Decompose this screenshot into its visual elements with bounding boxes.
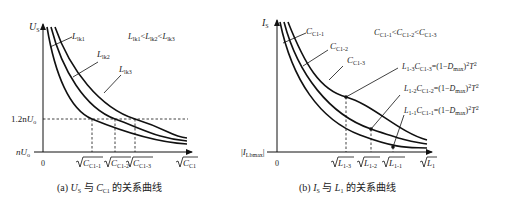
curve-label-cc1-3: CC1-3	[347, 55, 365, 66]
y-axis-label: US	[29, 21, 40, 33]
x-tick-cc1-3: CC1-3	[126, 157, 153, 169]
equation-l1-1: L1-1CC1-1=(1−Dmax)2T2	[403, 105, 479, 116]
curve-cc1-3	[288, 22, 427, 140]
relation-label: CC1-1<CC1-2<CC1-3	[374, 27, 437, 38]
x-axis-label: L1	[420, 157, 437, 169]
caption-b: (b) IS 与 L1 的关系曲线	[299, 181, 396, 194]
y-axis-label: IS	[261, 17, 269, 29]
leader-eq-1	[346, 68, 398, 97]
leader-cc1-3	[329, 66, 343, 80]
curve-label-lk2: Llk2	[96, 49, 110, 60]
curve-label-cc1-2: CC1-2	[330, 41, 348, 52]
curve-lk1	[47, 27, 187, 144]
y-ref-nUo: nUo	[16, 147, 30, 158]
leader-lk3	[104, 75, 121, 93]
svg-text:L1-1: L1-1	[388, 158, 402, 169]
curve-label-lk1: Llk1	[71, 31, 85, 42]
x-tick-cc1-2: CC1-2	[104, 157, 131, 169]
svg-text:L1: L1	[426, 158, 435, 169]
x-tick-l1-2: L1-2	[357, 157, 380, 169]
x-tick-l1-3: L1-3	[331, 157, 354, 169]
leader-eq-3	[393, 115, 404, 147]
y-ref-ilbmax: |ILbmax|	[241, 147, 265, 158]
x-axis-label: CC1	[176, 157, 198, 169]
svg-text:CC1: CC1	[183, 158, 196, 169]
figure-a: US Llk1<Llk2<Llk3 Llk1 Llk2 Llk3 1.2nUo …	[11, 21, 198, 194]
leader-cc1-2	[303, 50, 328, 66]
curve-label-lk3: Llk3	[118, 64, 132, 75]
equation-l1-3: L1-3CC1-3=(1−Dmax)2T2	[401, 61, 477, 72]
y-ref-1.2nUo: 1.2nUo	[11, 114, 36, 125]
svg-text:L1-3: L1-3	[337, 158, 351, 169]
curve-label-cc1-1: CC1-1	[306, 26, 324, 37]
x-tick-l1-1: L1-1	[382, 157, 405, 169]
x-tick-cc1-1: CC1-1	[76, 157, 103, 169]
curve-lk2	[51, 27, 187, 141]
svg-text:CC1-3: CC1-3	[133, 158, 151, 169]
origin-label: 0	[41, 159, 45, 168]
relation-label: Llk1<Llk2<Llk3	[127, 31, 175, 42]
figure-canvas: US Llk1<Llk2<Llk3 Llk1 Llk2 Llk3 1.2nUo …	[0, 0, 505, 205]
origin-label: 0	[275, 159, 279, 168]
svg-text:L1-2: L1-2	[363, 158, 377, 169]
leader-lk1	[50, 37, 72, 47]
figure-b: IS CC1-1<CC1-2<CC1-3 CC1-1 CC1-2 CC1-3 L…	[241, 17, 479, 194]
svg-text:CC1-2: CC1-2	[111, 158, 129, 169]
equation-l1-2: L1-2CC1-2=(1−Dmax)2T2	[403, 83, 479, 94]
curve-cc1-2	[284, 22, 427, 144]
svg-text:CC1-1: CC1-1	[83, 158, 101, 169]
caption-a: (a) US 与 CC1 的关系曲线	[57, 181, 162, 194]
leader-cc1-1	[283, 33, 306, 43]
